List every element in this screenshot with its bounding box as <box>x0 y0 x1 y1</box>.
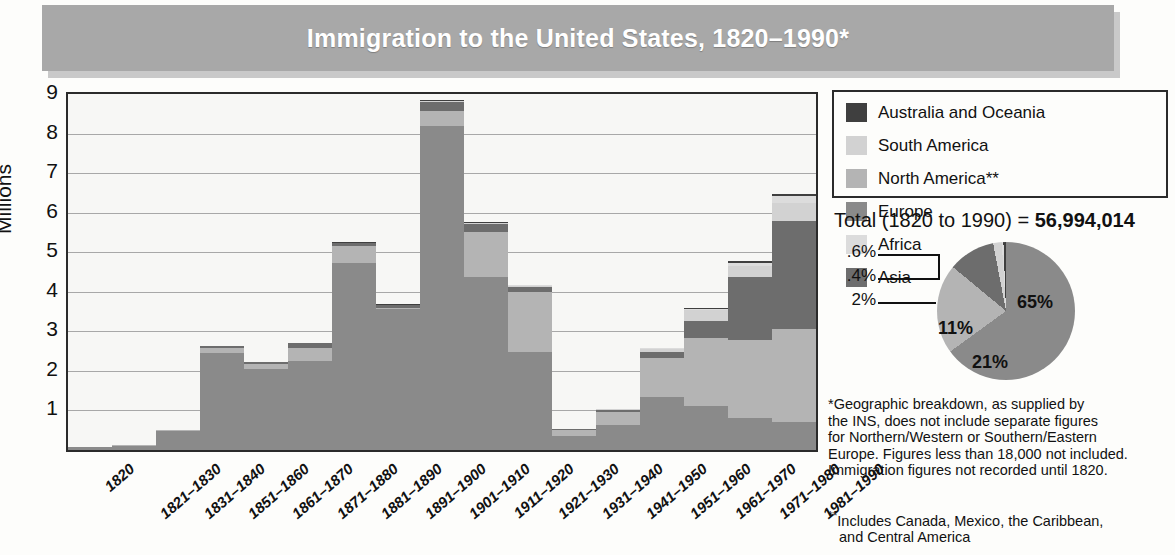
bar-segment <box>332 263 376 450</box>
bar-segment <box>728 266 772 277</box>
footnote-line: for Northern/Western or Southern/Eastern <box>828 429 1172 446</box>
chart-page: Immigration to the United States, 1820–1… <box>0 0 1175 555</box>
bar-1901-1910[interactable] <box>420 94 464 450</box>
pie-leader-line-vertical <box>938 254 940 280</box>
bar-1921-1930[interactable] <box>508 94 552 450</box>
pie-callout-label-africa: .4% <box>838 266 876 286</box>
y-tick-9: 9 <box>24 80 58 104</box>
footnote-line: Immigration figures not recorded until 1… <box>828 462 1172 479</box>
bar-segment <box>772 196 816 203</box>
y-axis-ticks: 987654321 <box>24 84 58 414</box>
bar-segment <box>508 292 552 352</box>
pie-callout-label-australia-and-oceania: .6% <box>838 242 876 262</box>
bar-1981-1990[interactable] <box>772 94 816 450</box>
pie-slice-label-north-america: 21% <box>972 352 1008 373</box>
bar-segment <box>464 232 508 277</box>
bar-1941-1950[interactable] <box>596 94 640 450</box>
y-tick-8: 8 <box>24 120 58 144</box>
bar-segment <box>420 126 464 450</box>
bar-1861-1870[interactable] <box>244 94 288 450</box>
plot-area <box>66 92 818 452</box>
bar-segment <box>244 369 288 450</box>
y-tick-2: 2 <box>24 357 58 381</box>
bar-1931-1940[interactable] <box>552 94 596 450</box>
bar-segment <box>772 203 816 221</box>
x-axis-labels: 18201821–18301831–18401851–18601861–1870… <box>66 460 818 555</box>
bar-segment <box>376 309 420 450</box>
pie-slice-label-europe: 65% <box>1017 292 1053 313</box>
total-label: Total (1820 to 1990) = 56,994,014 <box>834 209 1135 232</box>
bar-1820[interactable] <box>68 94 112 450</box>
bar-segment <box>728 340 772 418</box>
bar-segment <box>552 436 596 450</box>
pie-slice-label-asia: 11% <box>938 318 973 339</box>
bar-segment <box>684 310 728 320</box>
bar-segment <box>640 397 684 450</box>
legend-swatch-icon <box>846 103 867 122</box>
pie-leader-line <box>878 278 938 280</box>
y-tick-1: 1 <box>24 396 58 420</box>
bar-segment <box>420 111 464 125</box>
legend-swatch-icon <box>846 136 867 155</box>
y-tick-4: 4 <box>24 278 58 302</box>
bar-1821-1830[interactable] <box>112 94 156 450</box>
legend-label: South America <box>878 136 989 156</box>
bar-1831-1840[interactable] <box>156 94 200 450</box>
total-value: 56,994,014 <box>1035 209 1135 231</box>
title-banner: Immigration to the United States, 1820–1… <box>42 5 1114 71</box>
bar-1961-1970[interactable] <box>684 94 728 450</box>
bar-chart: Millions 987654321 18201821–18301831–184… <box>0 84 820 464</box>
legend-swatch-icon <box>846 169 867 188</box>
bar-segment <box>68 447 112 450</box>
footnote-line: Europe. Figures less than 18,000 not inc… <box>828 446 1172 463</box>
bar-segment <box>728 418 772 450</box>
bar-1951-1960[interactable] <box>640 94 684 450</box>
y-tick-3: 3 <box>24 317 58 341</box>
legend-label: North America** <box>878 169 999 189</box>
bar-segment <box>464 277 508 450</box>
legend-item-south-america[interactable]: South America <box>846 134 1051 157</box>
bar-segment <box>332 246 376 263</box>
legend-item-north-america[interactable]: North America** <box>846 167 1051 190</box>
y-axis-title: Millions <box>0 164 16 234</box>
footnote-marker: ** <box>828 509 837 523</box>
bar-segment <box>772 221 816 329</box>
bar-segment <box>200 353 244 450</box>
page-title: Immigration to the United States, 1820–1… <box>307 24 849 53</box>
pie-leader-line <box>878 254 938 256</box>
bar-segment <box>112 446 156 450</box>
bar-1851-1860[interactable] <box>200 94 244 450</box>
y-tick-7: 7 <box>24 159 58 183</box>
bar-segment <box>640 358 684 398</box>
bar-segment <box>288 361 332 450</box>
bar-segment <box>288 348 332 361</box>
bar-segment <box>420 102 464 112</box>
bar-1881-1890[interactable] <box>332 94 376 450</box>
pie-leader-line <box>878 302 936 304</box>
y-tick-6: 6 <box>24 199 58 223</box>
legend-column-left: Australia and OceaniaSouth AmericaNorth … <box>846 101 1051 200</box>
bar-1871-1880[interactable] <box>288 94 332 450</box>
x-label-1820: 1820 <box>102 460 138 495</box>
footnote-line: the INS, does not include separate figur… <box>828 413 1172 430</box>
bar-segment <box>464 224 508 232</box>
bar-1971-1980[interactable] <box>728 94 772 450</box>
bar-segment <box>596 412 640 426</box>
pie-chart: 65%21%11%.6%.4%2% <box>832 240 1172 385</box>
footnote-north-america: **Includes Canada, Mexico, the Caribbean… <box>828 508 1172 546</box>
legend-item-australia-and-oceania[interactable]: Australia and Oceania <box>846 101 1051 124</box>
footnote-line: Includes Canada, Mexico, the Caribbean, <box>837 513 1103 529</box>
footnote-line: *Geographic breakdown, as supplied by <box>828 396 1172 413</box>
legend-label: Australia and Oceania <box>878 103 1045 123</box>
bar-segment <box>684 321 728 338</box>
footnote-line: and Central America <box>828 529 1172 546</box>
pie-callout-label-south-america: 2% <box>838 290 876 310</box>
bar-1911-1920[interactable] <box>464 94 508 450</box>
bar-segment <box>596 425 640 450</box>
bar-1891-1900[interactable] <box>376 94 420 450</box>
footnote-geographic: *Geographic breakdown, as supplied bythe… <box>828 396 1172 479</box>
bar-segment <box>684 406 728 450</box>
bar-segment <box>772 329 816 422</box>
y-tick-5: 5 <box>24 238 58 262</box>
bar-segment <box>772 422 816 450</box>
